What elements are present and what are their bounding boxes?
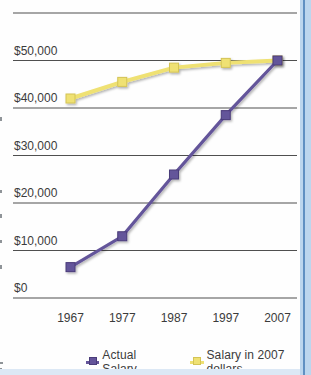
- data-point-marker: [170, 63, 179, 72]
- data-point-marker: [170, 170, 179, 179]
- y-axis-tick-label: $20,000: [14, 186, 58, 200]
- data-point-marker: [118, 232, 127, 241]
- y-axis-tick-label: $10,000: [14, 234, 58, 248]
- data-point-marker: [66, 263, 75, 272]
- page-border-right-line: [303, 0, 305, 375]
- data-point-marker: [66, 94, 75, 103]
- x-axis-tick-label: 1967: [57, 311, 84, 325]
- x-axis-tick-label: 1987: [161, 311, 188, 325]
- scan-artifact: [0, 265, 2, 269]
- data-point-marker: [118, 77, 127, 86]
- page-border-bottom: [0, 369, 311, 375]
- y-axis-tick-label: $30,000: [14, 139, 58, 153]
- scan-artifact: [0, 362, 3, 364]
- data-point-marker: [221, 58, 230, 67]
- y-axis-tick-label: $40,000: [14, 91, 58, 105]
- y-axis-tick-label: $0: [14, 281, 28, 295]
- scan-artifact: [0, 240, 2, 243]
- series-salary-2007-dollars: [66, 56, 282, 103]
- x-axis-tick-label: 2007: [264, 311, 291, 325]
- data-point-marker: [221, 111, 230, 120]
- scan-artifact: [0, 214, 2, 218]
- scan-artifact: [0, 190, 2, 193]
- salary-chart-figure: $0$10,000$20,000$30,000$40,000$50,000196…: [0, 0, 311, 375]
- x-axis-tick-label: 1977: [109, 311, 136, 325]
- page-border-right: [300, 0, 311, 375]
- data-point-marker: [273, 56, 282, 65]
- legend-marker-salary-2007-dollars-icon: [190, 361, 203, 364]
- scan-artifact: [0, 117, 2, 121]
- legend-marker-actual-salary-icon: [86, 361, 99, 364]
- series-line: [71, 61, 278, 268]
- y-axis-tick-label: $50,000: [14, 44, 58, 58]
- salary-chart-svg: $0$10,000$20,000$30,000$40,000$50,000196…: [0, 0, 311, 375]
- x-axis-tick-label: 1997: [212, 311, 239, 325]
